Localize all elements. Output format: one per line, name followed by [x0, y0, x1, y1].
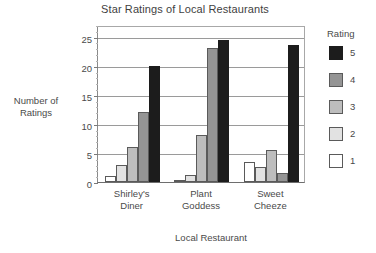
bar [255, 167, 266, 182]
y-tick-label: 25 [81, 33, 92, 44]
bar [218, 40, 229, 182]
bar [174, 180, 185, 182]
x-axis-category-label-line: Cheeze [227, 200, 313, 212]
bar [127, 147, 138, 182]
legend-title: Rating [327, 28, 354, 39]
x-axis-title: Local Restaurant [96, 232, 326, 243]
bar [149, 66, 160, 182]
y-tick-label: 15 [81, 91, 92, 102]
legend-item-4[interactable]: 4 [329, 73, 375, 87]
bar [185, 175, 196, 182]
legend-label: 2 [350, 128, 355, 140]
legend-swatch-icon [329, 100, 343, 114]
legend-swatch-icon [329, 46, 343, 60]
y-tick-label: 5 [87, 149, 92, 160]
bar [244, 162, 255, 182]
legend-item-3[interactable]: 3 [329, 100, 375, 114]
bar-group [98, 27, 167, 182]
bar [105, 176, 116, 182]
legend-item-1[interactable]: 1 [329, 154, 375, 168]
bar-chart: Star Ratings of Local Restaurants Number… [0, 0, 376, 253]
y-tick-label: 10 [81, 120, 92, 131]
legend-label: 3 [350, 101, 355, 113]
bar [288, 45, 299, 182]
bar-group [237, 27, 306, 182]
bar [138, 112, 149, 182]
bar [277, 173, 288, 182]
plot-area: 0510152025 [97, 26, 305, 183]
y-axis-title-line-2: Ratings [2, 107, 70, 119]
legend-label: 5 [350, 47, 355, 59]
y-tick-mark [94, 183, 98, 184]
legend-swatch-icon [329, 154, 343, 168]
chart-title: Star Ratings of Local Restaurants [60, 3, 310, 15]
legend-swatch-icon [329, 73, 343, 87]
x-axis-category-label-line: Sweet [227, 188, 313, 200]
x-axis-category-label: SweetCheeze [227, 188, 313, 212]
bar [207, 48, 218, 182]
bar [266, 150, 277, 182]
bar [116, 165, 127, 182]
bar [196, 135, 207, 182]
legend-swatch-icon [329, 127, 343, 141]
bar-group [167, 27, 236, 182]
legend-label: 1 [350, 155, 355, 167]
legend-item-2[interactable]: 2 [329, 127, 375, 141]
y-axis-title: Number of Ratings [2, 95, 70, 119]
legend-item-5[interactable]: 5 [329, 46, 375, 60]
y-axis-title-line-1: Number of [2, 95, 70, 107]
y-tick-label: 20 [81, 62, 92, 73]
legend-label: 4 [350, 74, 355, 86]
